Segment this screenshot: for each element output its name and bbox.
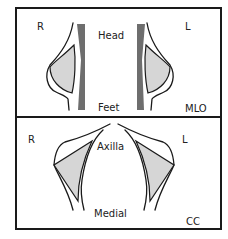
- cc-view-label: CC: [186, 216, 200, 227]
- cc-left-label: L: [182, 134, 188, 145]
- glandular-tissue-left: [145, 45, 170, 93]
- outer-frame: [16, 8, 221, 229]
- cc-medial-label: Medial: [94, 208, 127, 219]
- glandular-tissue-right: [50, 45, 75, 93]
- mlo-panel: R L Head Feet MLO: [37, 21, 207, 114]
- mlo-feet-label: Feet: [98, 102, 120, 113]
- pectoral-muscle-right: [77, 24, 85, 110]
- cc-right-label: R: [28, 134, 35, 145]
- cc-axilla-label: Axilla: [97, 141, 124, 152]
- cc-left-breast: [118, 124, 174, 210]
- mlo-left-label: L: [185, 21, 191, 32]
- mlo-right-breast: [47, 23, 85, 110]
- mlo-view-label: MLO: [185, 103, 207, 114]
- mammography-views-diagram: R L Head Feet MLO R L Axilla Medial CC: [0, 0, 228, 239]
- cc-right-breast: [54, 124, 110, 210]
- glandular-tissue-right: [54, 141, 92, 201]
- pectoral-muscle-left: [137, 24, 145, 110]
- mlo-right-label: R: [37, 21, 44, 32]
- mlo-left-breast: [137, 23, 173, 110]
- glandular-tissue-left: [136, 141, 174, 201]
- cc-panel: R L Axilla Medial CC: [28, 124, 200, 227]
- mlo-head-label: Head: [98, 30, 124, 41]
